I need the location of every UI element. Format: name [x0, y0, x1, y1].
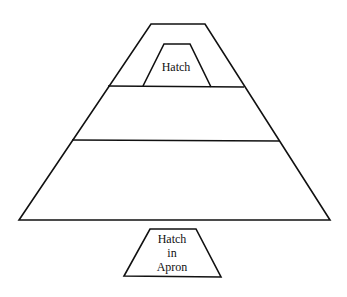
apron-hatch-label-line1: Hatch: [152, 232, 192, 246]
apron-hatch-label-line3: Apron: [152, 260, 192, 274]
hatch-label: Hatch: [156, 60, 196, 74]
outer-trapezoid: [19, 24, 330, 220]
upper-divider-line: [108, 86, 244, 87]
diagram-canvas: Hatch Hatch in Apron: [0, 0, 347, 297]
apron-hatch-label-line2: in: [152, 246, 192, 260]
lower-divider-line: [72, 140, 280, 141]
